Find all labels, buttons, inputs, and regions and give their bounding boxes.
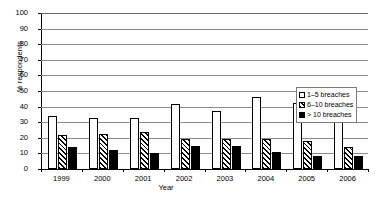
bar — [232, 146, 241, 169]
y-axis-tick-label: 80 — [0, 40, 28, 48]
bar-hatch-pattern — [223, 140, 230, 168]
bar-group — [249, 13, 290, 169]
x-axis-title: Year — [41, 183, 291, 192]
x-axis-tick-mark — [41, 169, 42, 172]
x-axis-tick-mark — [82, 169, 83, 172]
legend-swatch-icon — [299, 92, 305, 98]
bar — [191, 146, 200, 169]
bar — [58, 135, 67, 169]
bar — [89, 118, 98, 169]
legend-label: 6–10 breaches — [307, 101, 353, 109]
bar-group — [45, 13, 86, 169]
x-axis-tick-label: 2003 — [205, 175, 245, 183]
y-axis-tick-label: 60 — [0, 71, 28, 79]
bar-hatch-pattern — [100, 135, 107, 168]
bar — [171, 104, 180, 169]
bar — [99, 134, 108, 169]
bar — [272, 152, 281, 169]
bar — [313, 156, 322, 169]
bar — [150, 153, 159, 169]
bar — [140, 132, 149, 169]
x-axis-tick-mark — [164, 169, 165, 172]
legend-item: 1–5 breaches — [299, 90, 353, 100]
y-axis-tick-label: 10 — [0, 149, 28, 157]
x-axis-tick-label: 2006 — [328, 175, 368, 183]
chart-legend: 1–5 breaches6–10 breaches> 10 breaches — [296, 87, 357, 123]
y-axis-tick-label: 20 — [0, 134, 28, 142]
y-axis-tick-label: 30 — [0, 118, 28, 126]
x-axis-tick-label: 1999 — [41, 175, 81, 183]
legend-item: 6–10 breaches — [299, 100, 353, 110]
bar — [222, 139, 231, 169]
bar — [48, 116, 57, 169]
legend-label: > 10 breaches — [307, 111, 352, 119]
bar — [212, 111, 221, 170]
x-axis-tick-label: 2002 — [164, 175, 204, 183]
legend-swatch-icon — [299, 102, 305, 108]
bar — [344, 147, 353, 169]
bar — [262, 139, 271, 169]
bar — [130, 118, 139, 169]
bar-group — [86, 13, 127, 169]
x-axis-tick-mark — [286, 169, 287, 172]
x-axis-tick-mark — [327, 169, 328, 172]
bar — [181, 139, 190, 169]
y-axis-tick-label: 70 — [0, 56, 28, 64]
bar-hatch-pattern — [345, 148, 352, 168]
y-axis-tick-label: 0 — [0, 165, 28, 173]
y-axis-tick-label: 40 — [0, 103, 28, 111]
bar-hatch-pattern — [304, 142, 311, 168]
bar-hatch-pattern — [59, 136, 66, 168]
bar-group — [127, 13, 168, 169]
bar-group — [168, 13, 209, 169]
bar-hatch-pattern — [182, 140, 189, 168]
legend-swatch-icon — [299, 112, 305, 118]
y-axis-tick-label: 50 — [0, 87, 28, 95]
bar-hatch-pattern — [263, 140, 270, 168]
y-axis-tick-label: 90 — [0, 25, 28, 33]
x-axis-tick-label: 2004 — [246, 175, 286, 183]
bar — [303, 141, 312, 169]
x-axis-tick-label: 2001 — [123, 175, 163, 183]
bar-group — [209, 13, 250, 169]
bar-hatch-pattern — [141, 133, 148, 168]
bar — [354, 156, 363, 169]
x-axis-tick-mark — [245, 169, 246, 172]
bar — [109, 150, 118, 170]
y-axis-tick-label: 100 — [0, 9, 28, 17]
bar — [68, 147, 77, 169]
x-axis-tick-label: 2000 — [82, 175, 122, 183]
x-axis-tick-mark — [123, 169, 124, 172]
x-axis-tick-label: 2005 — [287, 175, 327, 183]
legend-item: > 10 breaches — [299, 110, 353, 120]
legend-label: 1–5 breaches — [307, 91, 349, 99]
bar-chart: % respondents 0102030405060708090100 199… — [0, 0, 376, 204]
bar — [252, 97, 261, 169]
y-axis-title: % respondents — [15, 22, 24, 112]
legend-hatch-pattern — [300, 103, 304, 107]
x-axis-tick-mark — [368, 169, 369, 172]
x-axis-tick-mark — [205, 169, 206, 172]
